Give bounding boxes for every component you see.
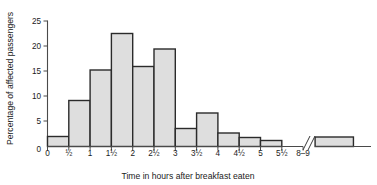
histogram-bar [69,101,90,147]
bars-group [48,34,354,147]
y-tick-label-0: 0 [36,145,41,154]
x-tick-label: 2½ [148,149,160,158]
histogram-bar [315,137,353,147]
x-tick-label: 3½ [191,149,203,158]
x-tick-label: 5 [258,149,263,158]
histogram-bar [261,141,282,147]
histogram-bar [111,34,132,147]
x-tick-label: 5½ [276,149,288,158]
x-tick-labels-group: 0½11½22½33½44½55½8–9 [45,149,310,158]
y-tick-label-25: 25 [32,17,42,26]
histogram-bar [175,129,196,147]
histogram-bar [90,70,111,147]
x-tick-label: 3 [173,149,178,158]
histogram-bar [133,67,154,147]
x-axis-title-text: Time in hours after breakfast eaten [122,171,255,181]
histogram-canvas: Percentage of affected passengers 25 20 … [0,0,377,185]
y-axis: 25 20 15 10 5 0 [32,17,48,154]
x-tick-label: 1 [88,149,93,158]
x-tick-label: ½ [65,149,72,158]
histogram-bar [197,113,218,147]
y-tick-label-10: 10 [32,92,42,101]
histogram-bar [154,49,175,147]
y-tick-label-5: 5 [36,117,41,126]
x-tick-label: 4 [216,149,221,158]
x-tick-label: 0 [45,149,50,158]
histogram-bar [218,133,239,147]
histogram-bar [239,138,260,147]
histogram-bar [48,137,69,147]
x-tick-label: 4½ [234,149,246,158]
x-tick-label: 2 [130,149,135,158]
y-axis-title-text: Percentage of affected passengers [5,12,15,145]
x-tick-label: 1½ [106,149,118,158]
y-tick-label-20: 20 [32,42,42,51]
histogram-figure: Percentage of affected passengers 25 20 … [0,0,377,185]
y-axis-title: Percentage of affected passengers [5,12,15,145]
x-tick-label: 8–9 [296,149,310,158]
y-tick-label-15: 15 [32,67,42,76]
